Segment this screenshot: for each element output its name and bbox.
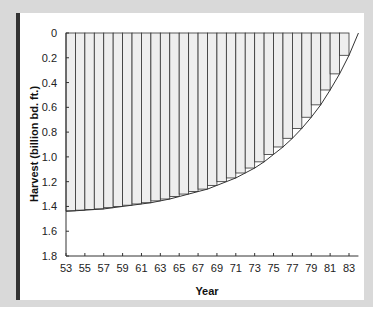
- y-tick-label: 1.8: [42, 250, 57, 262]
- bar-80: [321, 33, 330, 90]
- y-tick-label: 0: [51, 27, 57, 39]
- y-tick-label: 0.8: [42, 126, 57, 138]
- bar-68: [208, 33, 217, 185]
- x-tick-label: 59: [116, 262, 128, 274]
- y-tick-label: 0.4: [42, 77, 57, 89]
- bar-62: [151, 33, 160, 201]
- x-tick-label: 67: [192, 262, 204, 274]
- bar-70: [226, 33, 235, 178]
- bar-61: [141, 33, 150, 203]
- x-tick-label: 57: [98, 262, 110, 274]
- x-tick-label: 79: [305, 262, 317, 274]
- bar-72: [245, 33, 254, 168]
- x-tick-label: 75: [267, 262, 279, 274]
- x-tick-label: 83: [343, 262, 355, 274]
- bar-78: [302, 33, 311, 117]
- y-tick-label: 1.0: [42, 151, 57, 163]
- bar-77: [292, 33, 301, 128]
- x-tick-label: 73: [249, 262, 261, 274]
- bar-66: [189, 33, 198, 192]
- y-tick-label: 1.4: [42, 200, 57, 212]
- bar-63: [160, 33, 169, 199]
- harvest-chart: 00.20.40.60.81.01.21.41.61.8535557596163…: [0, 0, 385, 322]
- x-tick-label: 81: [324, 262, 336, 274]
- bar-53: [66, 33, 75, 211]
- bar-82: [340, 33, 349, 55]
- bar-76: [283, 33, 292, 138]
- bar-65: [179, 33, 188, 194]
- bar-54: [75, 33, 84, 210]
- x-tick-label: 77: [286, 262, 298, 274]
- x-tick-label: 53: [60, 262, 72, 274]
- bar-64: [170, 33, 179, 197]
- bar-69: [217, 33, 226, 182]
- bar-60: [132, 33, 141, 204]
- y-tick-label: 0.2: [42, 52, 57, 64]
- bar-79: [311, 33, 320, 105]
- bar-74: [264, 33, 273, 154]
- y-axis-title: Harvest (billion bd. ft.): [28, 86, 40, 202]
- bar-58: [113, 33, 122, 206]
- x-tick-label: 69: [211, 262, 223, 274]
- bar-57: [104, 33, 113, 208]
- x-tick-label: 63: [154, 262, 166, 274]
- bar-71: [236, 33, 245, 173]
- x-axis-title: Year: [195, 285, 219, 297]
- bars-group: [66, 33, 349, 211]
- bar-59: [123, 33, 132, 205]
- bar-56: [94, 33, 103, 209]
- x-tick-label: 61: [135, 262, 147, 274]
- bar-81: [330, 33, 339, 74]
- bar-75: [274, 33, 283, 147]
- x-tick-label: 71: [230, 262, 242, 274]
- bar-55: [85, 33, 94, 210]
- y-tick-label: 0.6: [42, 101, 57, 113]
- x-tick-label: 65: [173, 262, 185, 274]
- bar-73: [255, 33, 264, 162]
- y-tick-label: 1.6: [42, 225, 57, 237]
- y-tick-label: 1.2: [42, 176, 57, 188]
- bar-67: [198, 33, 207, 189]
- x-tick-label: 55: [79, 262, 91, 274]
